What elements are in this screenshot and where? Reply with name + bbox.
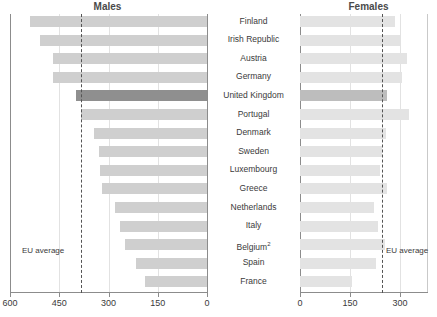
category-label-14: France [207, 276, 300, 287]
axis-baseline-females [300, 292, 428, 293]
tick-mark-females-150 [350, 293, 351, 297]
category-label-12: Belgium2 [207, 239, 300, 253]
tick-label-males-0: 0 [187, 298, 227, 308]
bar-females-9 [300, 183, 387, 194]
bar-females-6 [300, 128, 386, 139]
category-label-0: Finland [207, 16, 300, 27]
bar-males-6 [94, 128, 207, 139]
bar-males-2 [53, 53, 207, 64]
bar-males-7 [99, 146, 207, 157]
bar-females-8 [300, 165, 380, 176]
tick-mark-males-600 [10, 293, 11, 297]
bar-females-7 [300, 146, 382, 157]
tick-mark-males-0 [207, 293, 208, 297]
category-label-13: Spain [207, 257, 300, 268]
tick-mark-males-150 [158, 293, 159, 297]
bar-females-5 [300, 109, 409, 120]
bar-males-11 [120, 221, 207, 232]
bar-males-14 [145, 276, 207, 287]
category-label-7: Sweden [207, 146, 300, 157]
bar-females-14 [300, 276, 352, 287]
gridline-males-600 [10, 14, 11, 292]
bar-males-12 [125, 239, 207, 250]
category-label-6: Denmark [207, 127, 300, 138]
tick-label-males-600: 600 [0, 298, 30, 308]
tick-mark-females-0 [300, 293, 301, 297]
bar-males-13 [136, 258, 207, 269]
reference-line-males [81, 14, 82, 293]
bar-males-10 [115, 202, 207, 213]
bar-males-3 [53, 72, 207, 83]
chart-container: Males Females FinlandIrish RepublicAustr… [0, 0, 437, 317]
tick-mark-males-300 [109, 293, 110, 297]
category-label-9: Greece [207, 183, 300, 194]
bar-males-4 [76, 90, 207, 101]
tick-label-males-150: 150 [138, 298, 178, 308]
bar-females-3 [300, 72, 402, 83]
reference-label-males: EU average [22, 246, 64, 255]
bar-females-10 [300, 202, 374, 213]
tick-mark-females-300 [400, 293, 401, 297]
tick-label-males-450: 450 [39, 298, 79, 308]
category-label-1: Irish Republic [207, 34, 300, 45]
tick-label-females-150: 150 [330, 298, 370, 308]
bar-females-4 [300, 90, 387, 101]
category-label-10: Netherlands [207, 202, 300, 213]
bar-females-13 [300, 258, 376, 269]
bar-males-5 [81, 109, 207, 120]
category-label-11: Italy [207, 220, 300, 231]
bar-females-11 [300, 221, 378, 232]
bar-females-12 [300, 239, 385, 250]
bar-females-0 [300, 16, 395, 27]
bar-males-8 [100, 165, 207, 176]
tick-label-females-0: 0 [280, 298, 320, 308]
bar-females-2 [300, 53, 407, 64]
category-label-8: Luxembourg [207, 164, 300, 175]
panel-title-females: Females [300, 1, 437, 12]
tick-label-males-300: 300 [89, 298, 129, 308]
category-label-3: Germany [207, 71, 300, 82]
category-label-5: Portugal [207, 109, 300, 120]
category-label-4: United Kingdom [207, 90, 300, 101]
bar-males-1 [40, 35, 207, 46]
reference-line-females [382, 14, 383, 293]
panel-title-males: Males [0, 1, 215, 12]
bar-males-9 [102, 183, 207, 194]
bar-males-0 [30, 16, 207, 27]
reference-label-females: EU average [386, 246, 428, 255]
tick-label-females-300: 300 [380, 298, 420, 308]
category-label-2: Austria [207, 53, 300, 64]
bar-females-1 [300, 35, 400, 46]
tick-mark-males-450 [59, 293, 60, 297]
